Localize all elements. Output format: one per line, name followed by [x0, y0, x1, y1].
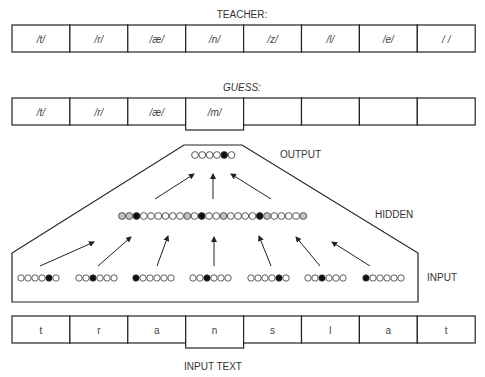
guess-cell	[244, 98, 302, 125]
guess-cell: /æ/	[128, 98, 186, 125]
hidden-unit	[235, 213, 242, 220]
input-unit	[25, 275, 31, 281]
nettalk-diagram: TEACHER: /t//r//æ//n//z//l//e// / GUESS:…	[0, 0, 485, 377]
input-unit	[391, 275, 397, 281]
output-unit	[199, 152, 206, 159]
hidden-unit	[264, 213, 271, 220]
input-unit	[255, 275, 261, 281]
input-unit	[97, 275, 103, 281]
arrow-icon	[259, 236, 271, 266]
hidden-unit	[227, 213, 234, 220]
input-text-cell: s	[244, 316, 302, 343]
teacher-cell: /t/	[12, 25, 70, 52]
hidden-layer	[119, 213, 307, 220]
arrow-icon	[155, 174, 194, 199]
input-unit	[319, 275, 325, 281]
cell-text: /z/	[266, 34, 279, 45]
input-unit	[168, 275, 174, 281]
input-unit	[90, 275, 96, 281]
guess-label: GUESS:	[223, 82, 261, 93]
cell-text: s	[270, 325, 275, 336]
hidden-unit	[256, 213, 263, 220]
cell-text: / /	[441, 34, 452, 45]
input-unit	[225, 275, 231, 281]
input-unit	[312, 275, 318, 281]
hidden-unit	[119, 213, 126, 220]
hidden-unit	[271, 213, 278, 220]
input-text-cell: t	[12, 316, 70, 343]
input-unit	[83, 275, 89, 281]
arrow-icon	[40, 242, 94, 266]
cell-text: /n/	[208, 34, 221, 45]
output-unit	[192, 152, 199, 159]
hidden-unit	[133, 213, 140, 220]
cell-text: l	[329, 325, 331, 336]
teacher-cell: /e/	[359, 25, 417, 52]
input-unit	[269, 275, 275, 281]
arrow-icon	[231, 174, 271, 199]
guess-cell: /t/	[12, 98, 70, 125]
cell-text: /e/	[382, 34, 395, 45]
output-layer-label: OUTPUT	[280, 149, 321, 160]
input-unit	[147, 275, 153, 281]
teacher-cell: /z/	[244, 25, 302, 52]
output-unit	[206, 152, 213, 159]
arrow-icon	[296, 237, 320, 266]
hidden-unit	[184, 213, 191, 220]
cell-text: /r/	[93, 107, 104, 118]
hidden-unit	[162, 213, 169, 220]
input-unit	[377, 275, 383, 281]
teacher-label: TEACHER:	[217, 9, 268, 20]
guess-cell: /r/	[70, 98, 128, 125]
cell-text: /t/	[36, 107, 47, 118]
input-unit	[32, 275, 38, 281]
input-layer-label: INPUT	[427, 272, 457, 283]
input-unit	[398, 275, 404, 281]
output-unit	[228, 152, 235, 159]
hidden-unit	[249, 213, 256, 220]
guess-cell	[359, 98, 417, 125]
hidden-unit	[155, 213, 162, 220]
cell-text: /m/	[207, 107, 223, 118]
output-layer	[192, 152, 235, 159]
input-unit	[333, 275, 339, 281]
hidden-unit	[278, 213, 285, 220]
input-unit	[276, 275, 282, 281]
cell-text: /t/	[36, 34, 47, 45]
input-to-hidden-arrows	[40, 236, 370, 266]
input-unit	[46, 275, 52, 281]
input-unit	[248, 275, 254, 281]
input-text-cell: t	[417, 316, 475, 343]
input-unit	[133, 275, 139, 281]
hidden-unit	[198, 213, 205, 220]
cell-text: /æ/	[149, 107, 166, 118]
input-unit	[104, 275, 110, 281]
input-unit	[154, 275, 160, 281]
input-unit	[204, 275, 210, 281]
hidden-unit	[140, 213, 147, 220]
input-unit	[39, 275, 45, 281]
guess-cell: /m/	[186, 98, 244, 130]
input-unit	[283, 275, 289, 281]
hidden-unit	[293, 213, 300, 220]
teacher-cell: / /	[417, 25, 475, 52]
cell-text: n	[212, 325, 218, 336]
input-text-cell: l	[302, 316, 360, 343]
teacher-cell: /l/	[302, 25, 360, 52]
teacher-cell: /r/	[70, 25, 128, 52]
input-text-cell: n	[186, 316, 244, 348]
hidden-unit	[177, 213, 184, 220]
input-unit	[18, 275, 24, 281]
hidden-unit	[191, 213, 198, 220]
input-text-cell: a	[359, 316, 417, 343]
hidden-unit	[300, 213, 307, 220]
cell-text: /æ/	[149, 34, 166, 45]
input-unit	[190, 275, 196, 281]
input-unit	[384, 275, 390, 281]
output-unit	[221, 152, 228, 159]
input-unit	[340, 275, 346, 281]
guess-row: /t//r//æ//m/	[12, 98, 475, 130]
guess-cell	[417, 98, 475, 125]
arrow-icon	[332, 242, 370, 266]
hidden-unit	[148, 213, 155, 220]
